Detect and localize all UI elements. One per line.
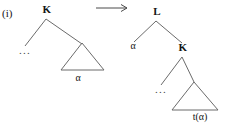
- right-tree-k-node-label: K: [176, 42, 190, 53]
- right-tree-alpha-label: α: [125, 41, 141, 51]
- right-tree-edges: [134, 21, 194, 85]
- left-tree-root-node-label: K: [40, 4, 54, 15]
- left-tree-ellipsis-label: ...: [16, 45, 34, 56]
- figure-vector-layer: [0, 0, 228, 128]
- right-tree-ellipsis-label: ...: [152, 84, 170, 95]
- right-tree-root-node-label: L: [150, 6, 164, 17]
- case-label: (i): [2, 8, 12, 19]
- right-tree-edge-K-to-talpha: [182, 57, 194, 82]
- left-tree-alpha-label: α: [69, 73, 87, 83]
- right-tree-edge-L-to-K: [156, 21, 182, 43]
- left-tree-alpha-triangle: [61, 43, 104, 70]
- left-tree-edges: [25, 19, 82, 46]
- left-tree-edge-root-to-alpha: [46, 19, 82, 44]
- right-tree-edge-K-to-ellipsis: [161, 57, 182, 85]
- left-tree-edge-root-to-ellipsis: [25, 19, 46, 46]
- right-tree-talpha-label: t(α): [186, 112, 214, 122]
- tree-rewrite-figure: (i) K ... α L α K ... t(α): [0, 0, 228, 128]
- right-tree-talpha-triangle: [172, 82, 218, 110]
- transform-arrow-icon: [96, 5, 127, 12]
- right-tree-edge-L-to-alpha: [134, 21, 156, 42]
